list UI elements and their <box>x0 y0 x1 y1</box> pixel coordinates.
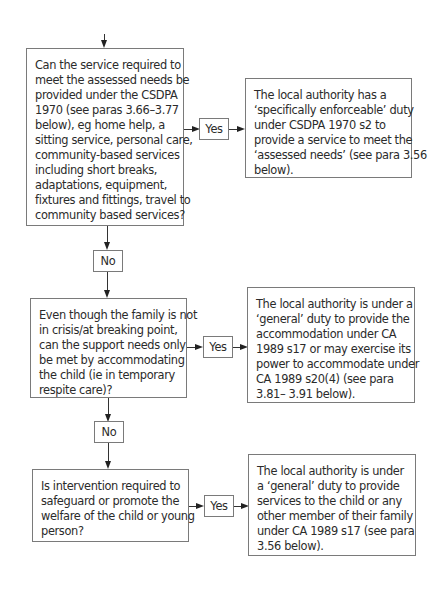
outcome-1-line: below). <box>254 163 403 178</box>
question-1-line: community based services? <box>35 208 175 223</box>
question-1-line: adaptations, equipment, <box>35 178 175 193</box>
q2-yes-arrowhead-left <box>195 344 203 350</box>
q2-yes-connector-left <box>187 347 195 348</box>
q2-yes-connector-right <box>233 347 240 348</box>
outcome-3-line: 3.56 below). <box>257 539 407 554</box>
outcome-1-line: provide a service to meet the <box>254 133 403 148</box>
q1-no-label: No <box>93 250 123 272</box>
question-box-2: Even though the family is not in crisis/… <box>30 298 187 398</box>
q2-yes-label: Yes <box>203 336 233 358</box>
q2-no-arrowhead-bottom <box>105 461 111 469</box>
q1-yes-arrowhead-right <box>237 126 245 132</box>
question-1-line: provided under the CSDPA <box>35 88 175 103</box>
question-2-line: in crisis/at breaking point, <box>39 323 178 338</box>
question-2-line: be met by accommodating <box>39 353 178 368</box>
question-1-line: community-based services <box>35 148 175 163</box>
question-box-1: Can the service required to meet the ass… <box>26 48 184 226</box>
q3-yes-arrowhead-left <box>196 503 204 509</box>
outcome-1-line: The local authority has a <box>254 88 403 103</box>
q1-no-arrowhead-top <box>104 242 110 250</box>
outcome-3-line: services to the child or any <box>257 494 407 509</box>
outcome-3-line: under CA 1989 s17 (see para <box>257 524 407 539</box>
question-1-line: meet the assessed needs be <box>35 73 175 88</box>
question-1-line: Can the service required to <box>35 58 175 73</box>
question-2-line: the child (ie in temporary <box>39 368 178 383</box>
question-1-line: fixtures and fittings, travel to <box>35 193 175 208</box>
outcome-3-line: a ‘general’ duty to provide <box>257 479 407 494</box>
question-3-line: safeguard or promote the <box>41 494 180 509</box>
outcome-box-3: The local authority is under a ‘general’… <box>248 454 416 556</box>
outcome-box-2: The local authority is under a ‘general’… <box>247 287 415 403</box>
q1-yes-connector-left <box>184 129 192 130</box>
q2-no-connector-bottom <box>108 443 109 461</box>
q1-yes-connector-right <box>229 129 237 130</box>
question-3-line: Is intervention required to <box>41 479 180 494</box>
q1-no-connector-top <box>107 226 108 243</box>
outcome-2-line: 1989 s17 or may exercise its <box>256 342 406 357</box>
q3-yes-connector-left <box>189 506 196 507</box>
q3-yes-connector-right <box>234 506 241 507</box>
question-3-line: welfare of the child or young <box>41 509 180 524</box>
q3-yes-label: Yes <box>204 495 234 517</box>
question-2-line: can the support needs only <box>39 338 178 353</box>
question-1-line: including short breaks, <box>35 163 175 178</box>
question-1-line: 1970 (see paras 3.66–3.77 <box>35 103 175 118</box>
q2-no-connector-top <box>108 398 109 414</box>
question-box-3: Is intervention required to safeguard or… <box>32 469 189 542</box>
outcome-1-line: ‘assessed needs’ (see para 3.56 <box>254 148 403 163</box>
outcome-2-line: CA 1989 s20(4) (see para <box>256 372 406 387</box>
outcome-2-line: 3.81– 3.91 below). <box>256 387 406 402</box>
question-2-line: Even though the family is not <box>39 308 178 323</box>
q1-yes-label: Yes <box>199 118 229 140</box>
outcome-box-1: The local authority has a ‘specifically … <box>245 78 412 178</box>
question-1-line: below), eg home help, a <box>35 118 175 133</box>
outcome-3-line: other member of their family <box>257 509 407 524</box>
outcome-2-line: accommodation under CA <box>256 327 406 342</box>
outcome-2-line: The local authority is under a <box>256 297 406 312</box>
question-2-line: respite care)? <box>39 383 178 398</box>
q1-no-connector-bottom <box>107 272 108 290</box>
question-3-line: person? <box>41 524 180 539</box>
outcome-1-line: under CSDPA 1970 s2 to <box>254 118 403 133</box>
question-1-line: sitting service, personal care, <box>35 133 175 148</box>
q1-no-arrowhead-bottom <box>104 290 110 298</box>
outcome-1-line: ‘specifically enforceable’ duty <box>254 103 403 118</box>
q2-no-label: No <box>94 421 124 443</box>
entry-arrowhead <box>101 40 107 48</box>
outcome-2-line: power to accommodate under <box>256 357 406 372</box>
outcome-3-line: The local authority is under <box>257 464 407 479</box>
outcome-2-line: ‘general’ duty to provide the <box>256 312 406 327</box>
